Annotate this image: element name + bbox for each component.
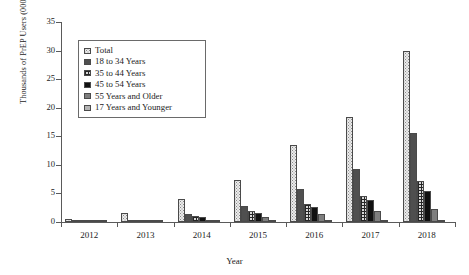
bar-2014-total <box>178 199 185 222</box>
y-tick <box>56 136 61 137</box>
legend-swatch-icon <box>84 93 91 99</box>
legend-swatch-icon <box>84 82 91 88</box>
bar-2018-55-years-and-older <box>431 209 438 222</box>
bar-2017-18-to-34-years <box>353 169 360 222</box>
x-tick-label-2013: 2013 <box>117 230 173 240</box>
y-tick <box>56 51 61 52</box>
legend-label: 35 to 44 Years <box>95 68 145 79</box>
x-tick-label-2018: 2018 <box>399 230 455 240</box>
y-axis-line <box>61 22 62 222</box>
x-axis-line <box>61 222 455 223</box>
chart-legend: Total18 to 34 Years35 to 44 Years45 to 5… <box>78 40 206 118</box>
bar-2015-55-years-and-older <box>262 217 269 222</box>
y-tick-label: 5 <box>31 188 55 197</box>
bar-group-2016 <box>290 22 332 222</box>
y-tick-label: 25 <box>31 74 55 83</box>
bar-2015-35-to-44-years <box>248 211 255 222</box>
legend-swatch-icon <box>84 59 91 65</box>
y-tick <box>56 22 61 23</box>
legend-item-5[interactable]: 17 Years and Younger <box>84 102 200 113</box>
bar-2013-45-to-54-years <box>142 220 149 222</box>
legend-item-3[interactable]: 45 to 54 Years <box>84 79 200 90</box>
bar-2018-17-years-and-younger <box>438 220 445 222</box>
y-tick-label: 20 <box>31 103 55 112</box>
bar-2012-45-to-54-years <box>86 220 93 222</box>
bar-2012-55-years-and-older <box>93 220 100 222</box>
bar-2016-35-to-44-years <box>304 204 311 222</box>
x-tick-label-2017: 2017 <box>343 230 399 240</box>
legend-item-2[interactable]: 35 to 44 Years <box>84 68 200 79</box>
y-tick <box>56 193 61 194</box>
legend-label: Total <box>95 45 113 56</box>
x-tick <box>117 222 118 227</box>
y-axis-title: Thousands of PrEP Users (000s) <box>19 0 28 134</box>
y-tick-label: 10 <box>31 160 55 169</box>
x-tick-label-2016: 2016 <box>286 230 342 240</box>
legend-label: 45 to 54 Years <box>95 79 145 90</box>
x-tick <box>174 222 175 227</box>
x-tick <box>286 222 287 227</box>
bar-2016-17-years-and-younger <box>325 220 332 222</box>
bar-2016-total <box>290 145 297 222</box>
bar-group-2017 <box>346 22 388 222</box>
legend-swatch-icon <box>84 70 91 76</box>
x-tick <box>455 222 456 227</box>
legend-label: 17 Years and Younger <box>95 102 172 113</box>
bar-2015-45-to-54-years <box>255 213 262 222</box>
legend-label: 55 Years and Older <box>95 91 162 102</box>
y-tick-label: 0 <box>31 217 55 226</box>
x-tick-label-2015: 2015 <box>230 230 286 240</box>
bar-2017-35-to-44-years <box>360 196 367 222</box>
bar-2018-35-to-44-years <box>417 181 424 222</box>
bar-2018-45-to-54-years <box>424 191 431 222</box>
bar-2014-55-years-and-older <box>206 220 213 222</box>
x-tick <box>230 222 231 227</box>
bar-2017-17-years-and-younger <box>381 220 388 222</box>
x-tick <box>61 222 62 227</box>
y-tick <box>56 108 61 109</box>
bar-group-2018 <box>403 22 445 222</box>
legend-item-0[interactable]: Total <box>84 45 200 56</box>
y-tick-label: 30 <box>31 46 55 55</box>
bar-2013-total <box>121 213 128 222</box>
bar-2012-18-to-34-years <box>72 220 79 222</box>
bar-2016-55-years-and-older <box>318 214 325 222</box>
bar-2015-total <box>234 180 241 222</box>
bar-2014-17-years-and-younger <box>213 220 220 222</box>
bar-2017-total <box>346 117 353 222</box>
legend-item-1[interactable]: 18 to 34 Years <box>84 56 200 67</box>
bar-2012-35-to-44-years <box>79 220 86 222</box>
bar-2013-18-to-34-years <box>128 220 135 222</box>
bar-2018-18-to-34-years <box>410 133 417 222</box>
bar-2012-17-years-and-younger <box>100 220 107 222</box>
x-tick <box>342 222 343 227</box>
y-tick <box>56 165 61 166</box>
bar-2014-45-to-54-years <box>199 217 206 222</box>
x-tick-label-2014: 2014 <box>174 230 230 240</box>
y-tick <box>56 79 61 80</box>
x-axis-title: Year <box>0 256 469 266</box>
bar-group-2015 <box>234 22 276 222</box>
bar-2013-55-years-and-older <box>149 220 156 222</box>
bar-2013-35-to-44-years <box>135 220 142 222</box>
bar-2017-45-to-54-years <box>367 200 374 222</box>
bar-2014-18-to-34-years <box>185 214 192 222</box>
bar-2013-17-years-and-younger <box>156 220 163 222</box>
bar-2017-55-years-and-older <box>374 211 381 222</box>
legend-swatch-icon <box>84 48 91 54</box>
chart-figure: Thousands of PrEP Users (000s) Year 0510… <box>0 0 469 275</box>
bar-2014-35-to-44-years <box>192 216 199 222</box>
x-tick <box>399 222 400 227</box>
legend-label: 18 to 34 Years <box>95 56 145 67</box>
bar-2016-18-to-34-years <box>297 189 304 222</box>
bar-2016-45-to-54-years <box>311 207 318 222</box>
y-tick-label: 15 <box>31 131 55 140</box>
legend-swatch-icon <box>84 105 91 111</box>
legend-item-4[interactable]: 55 Years and Older <box>84 91 200 102</box>
bar-2015-17-years-and-younger <box>269 220 276 222</box>
x-tick-label-2012: 2012 <box>61 230 117 240</box>
bar-2012-total <box>65 219 72 222</box>
y-tick-label: 35 <box>31 17 55 26</box>
bar-2015-18-to-34-years <box>241 206 248 222</box>
bar-2018-total <box>403 51 410 222</box>
